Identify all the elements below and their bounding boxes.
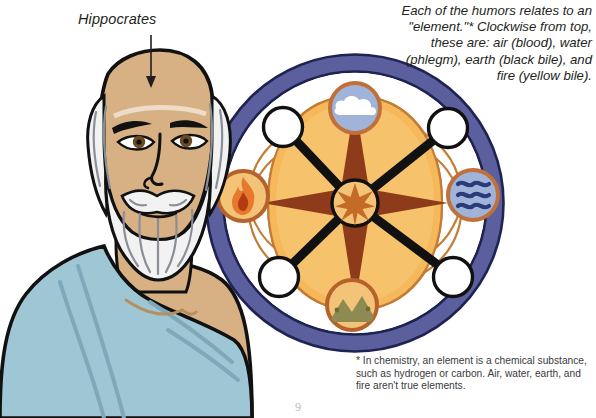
figure-label-hippocrates: Hippocrates (78, 11, 156, 27)
element-earth (327, 280, 377, 330)
node-upper-right (429, 109, 468, 148)
footnote-element-definition: * In chemistry, an element is a chemical… (356, 355, 594, 393)
node-lower-left (260, 258, 299, 297)
page-number: 9 (0, 400, 596, 415)
wheel-hub (332, 180, 378, 226)
element-water (448, 170, 498, 220)
page-canvas: Hippocrates Each of the humors relates t… (0, 0, 596, 418)
humors-wheel (207, 55, 504, 352)
element-air (330, 83, 380, 133)
node-lower-right (434, 258, 473, 297)
caption-elements: Each of the humors relates to an "elemen… (392, 3, 592, 84)
node-upper-left (264, 108, 303, 147)
